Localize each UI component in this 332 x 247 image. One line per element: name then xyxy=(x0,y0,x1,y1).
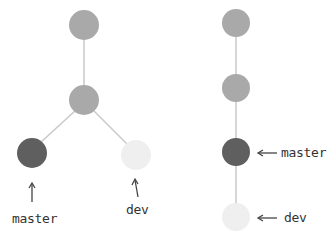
right-commit-2 xyxy=(222,74,250,102)
right-master-label: master xyxy=(281,145,326,160)
left-master-label: master xyxy=(12,211,57,226)
left-commit-2 xyxy=(69,85,99,115)
left-master-arrow-icon xyxy=(29,183,35,202)
diagram-canvas xyxy=(0,0,332,247)
left-commit-dev xyxy=(121,140,151,170)
left-commit-master xyxy=(17,138,47,168)
left-dev-arrow-icon xyxy=(132,179,138,197)
left-commit-1 xyxy=(69,10,99,40)
right-dev-arrow-icon xyxy=(258,215,277,221)
right-dev-label: dev xyxy=(284,210,307,225)
right-master-arrow-icon xyxy=(258,150,277,156)
right-commit-dev xyxy=(222,203,250,231)
left-dev-label: dev xyxy=(126,202,149,217)
right-commit-1 xyxy=(222,9,250,37)
right-commit-master xyxy=(222,138,250,166)
